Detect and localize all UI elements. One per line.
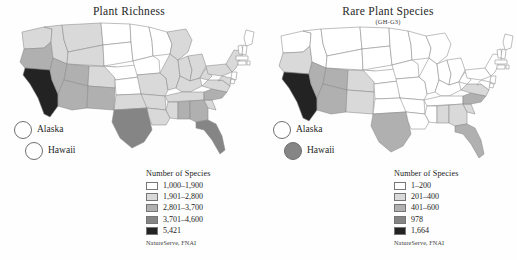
map-region-nj — [231, 72, 237, 80]
legend-title: Number of Species — [146, 169, 210, 178]
legend-label-4: 1,664 — [411, 227, 429, 235]
map-region-al — [178, 101, 190, 119]
map-region-nd — [360, 27, 390, 49]
map-region-wi — [408, 31, 431, 60]
legend-swatch-2 — [394, 204, 406, 212]
map-region-nj — [490, 76, 496, 84]
map-region-wi — [149, 27, 172, 56]
legend-swatch-3 — [146, 216, 158, 224]
legend-swatch-0 — [394, 182, 406, 190]
map-region-ga — [449, 104, 467, 126]
map-legend-plant-richness: Number of Species 1,000–1,9001,901–2,800… — [146, 169, 210, 246]
legend-row: 1,000–1,900 — [146, 181, 210, 191]
inset-label-alaska-secondary: Alaska — [296, 124, 322, 134]
map-region-al — [437, 105, 449, 123]
map-region-ct — [497, 65, 505, 69]
legend-swatch-1 — [146, 193, 158, 201]
legend-label-4: 5,421 — [163, 227, 181, 235]
map-region-ga — [190, 100, 208, 122]
legend-row: 1–200 — [394, 181, 458, 191]
map-region-nd — [101, 23, 131, 45]
map-region-me — [503, 34, 513, 50]
map-region-ma — [236, 56, 248, 60]
alaska-circle-symbol-secondary — [273, 121, 291, 139]
legend-swatch-0 — [146, 182, 158, 190]
legend-label-2: 2,801–3,700 — [163, 204, 203, 212]
map-region-tx — [112, 108, 152, 148]
inset-label-hawaii-secondary: Hawaii — [307, 145, 334, 155]
legend-label-2: 401–600 — [411, 204, 439, 212]
inset-label-alaska: Alaska — [37, 124, 63, 134]
legend-label-3: 3,701–4,600 — [163, 216, 203, 224]
legend-title-secondary: Number of Species — [394, 169, 458, 178]
legend-label-1: 1,901–2,800 — [163, 193, 203, 201]
legend-row: 2,801–3,700 — [146, 203, 210, 213]
legend-row: 1,664 — [394, 226, 458, 236]
hawaii-circle-symbol — [25, 142, 43, 160]
map-region-nh — [242, 45, 247, 55]
page-title-secondary: Rare Plant Species — [259, 5, 517, 17]
map-panel-rare-plant-species: Rare Plant Species (GH-G3) Alaska Hawaii… — [259, 0, 517, 260]
legend-row: 201–400 — [394, 192, 458, 202]
legend-swatch-1 — [394, 193, 406, 201]
map-region-ri — [247, 61, 250, 65]
legend-source-secondary: NatureServe, FNAI — [394, 239, 458, 246]
map-region-ks — [374, 81, 400, 99]
map-region-fl — [455, 124, 484, 158]
map-region-me — [244, 30, 254, 46]
legend-swatch-4 — [394, 227, 406, 235]
map-region-nh — [501, 49, 506, 59]
map-region-sd — [103, 42, 133, 66]
legend-row: 978 — [394, 215, 458, 225]
legend-label-0: 1–200 — [411, 182, 431, 190]
hawaii-circle-symbol-secondary — [284, 142, 302, 160]
legend-swatch-3 — [394, 216, 406, 224]
legend-label-1: 201–400 — [411, 193, 439, 201]
map-region-ri — [506, 65, 509, 69]
legend-row: 1,901–2,800 — [146, 192, 210, 202]
legend-swatch-2 — [146, 204, 158, 212]
map-region-nm — [87, 86, 115, 110]
map-region-sd — [362, 46, 392, 70]
map-region-mo — [396, 77, 427, 100]
map-legend-rare-plant-species: Number of Species 1–200201–400401–600978… — [394, 169, 458, 246]
map-region-ks — [115, 77, 141, 95]
legend-row: 3,701–4,600 — [146, 215, 210, 225]
legend-source: NatureServe, FNAI — [146, 239, 210, 246]
map-region-ct — [238, 61, 246, 65]
map-region-ma — [495, 60, 507, 64]
map-region-fl — [196, 120, 225, 154]
legend-label-0: 1,000–1,900 — [163, 182, 203, 190]
legend-row: 401–600 — [394, 203, 458, 213]
page-title: Plant Richness — [0, 5, 258, 17]
legend-row: 5,421 — [146, 226, 210, 236]
alaska-circle-symbol — [14, 121, 32, 139]
legend-swatch-4 — [146, 227, 158, 235]
map-panel-plant-richness: Plant Richness Alaska Hawaii Number of S… — [0, 0, 258, 260]
inset-label-hawaii: Hawaii — [48, 145, 75, 155]
legend-rows-secondary: 1–200201–400401–6009781,664 — [394, 181, 458, 236]
legend-rows: 1,000–1,9001,901–2,8002,801–3,7003,701–4… — [146, 181, 210, 236]
map-region-tx — [371, 112, 411, 152]
map-region-mo — [137, 73, 168, 96]
legend-label-3: 978 — [411, 216, 423, 224]
map-region-nm — [346, 90, 374, 114]
